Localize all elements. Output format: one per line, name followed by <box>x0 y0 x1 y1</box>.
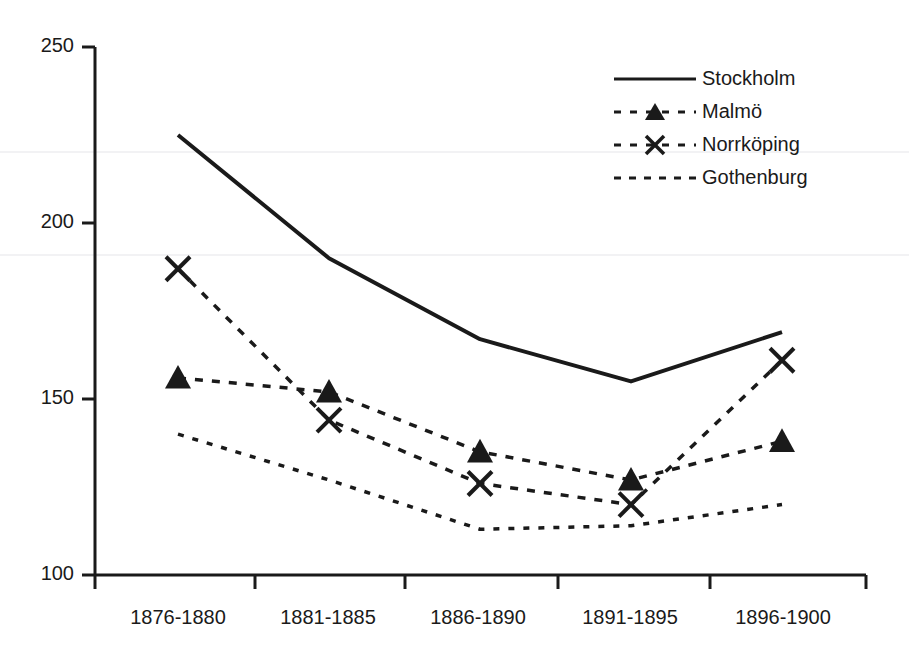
legend-item-stockholm: Stockholm <box>612 62 902 95</box>
x-axis-ticks <box>95 575 866 589</box>
solid-line-key-icon <box>612 67 700 91</box>
y-tick-label-200: 200 <box>4 210 74 233</box>
y-tick-label-250: 250 <box>4 34 74 57</box>
data-point-marker-triangle <box>165 365 191 389</box>
dashed-triangle-key-icon <box>612 100 700 124</box>
x-tick-label-1876-1880: 1876-1880 <box>98 606 258 629</box>
legend-item-malmo: Malmö <box>612 95 902 128</box>
legend-label-norrkoping: Norrköping <box>700 133 800 156</box>
y-tick-label-100: 100 <box>4 562 74 585</box>
legend-label-stockholm: Stockholm <box>700 67 795 90</box>
data-series-layer <box>165 135 795 529</box>
y-tick-label-150: 150 <box>4 386 74 409</box>
legend-label-gothenburg: Gothenburg <box>700 166 808 189</box>
x-tick-label-1881-1885: 1881-1885 <box>248 606 408 629</box>
y-axis-ticks <box>82 47 95 575</box>
dotted-line-key-icon <box>612 166 700 190</box>
x-tick-label-1891-1895: 1891-1895 <box>550 606 710 629</box>
data-point-marker-triangle <box>467 439 493 463</box>
series-line <box>178 378 782 480</box>
data-point-marker-triangle <box>769 428 795 452</box>
series-malm- <box>165 365 795 491</box>
legend-label-malmo: Malmö <box>700 100 762 123</box>
chart-legend: Stockholm Malmö Norrköping <box>612 62 902 194</box>
legend-item-norrkoping: Norrköping <box>612 128 902 161</box>
x-tick-label-1886-1890: 1886-1890 <box>398 606 558 629</box>
series-norrk-ping <box>166 257 794 517</box>
legend-item-gothenburg: Gothenburg <box>612 161 902 194</box>
dashed-x-key-icon <box>612 133 700 157</box>
line-chart: 250 200 150 100 1876-1880 1881-1885 1886… <box>0 0 909 648</box>
x-tick-label-1896-1900: 1896-1900 <box>703 606 863 629</box>
